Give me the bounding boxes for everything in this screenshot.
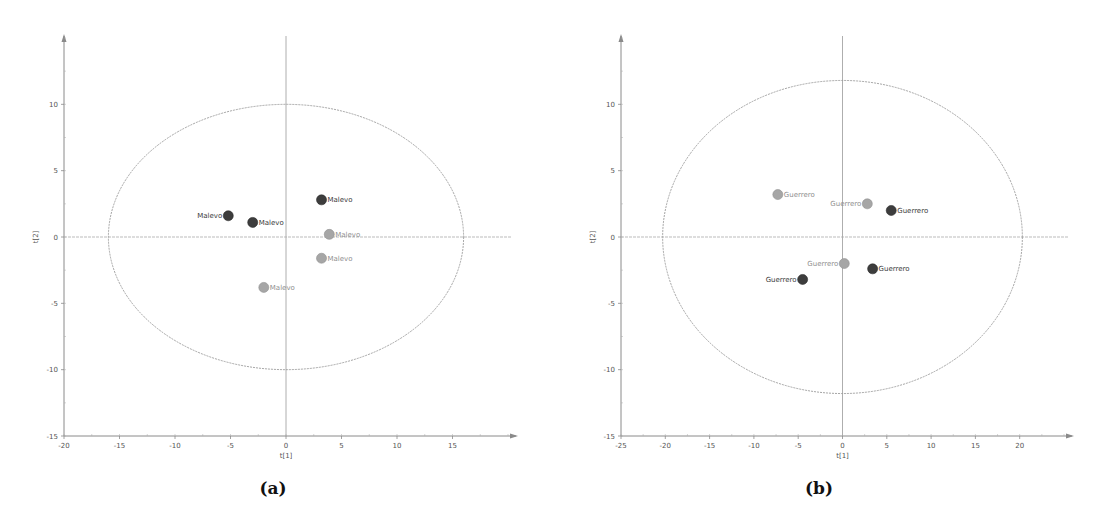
y-tick-label: 0 <box>611 234 615 242</box>
y-tick-label: 5 <box>611 167 615 175</box>
y-axis-title: t[2] <box>32 230 40 243</box>
data-point: Guerrero <box>807 259 849 269</box>
y-tick-label: 0 <box>54 234 58 242</box>
y-tick-label: -5 <box>608 300 615 308</box>
score-plot-b: -25-20-15-10-505101520-15-10-50510t[1]t[… <box>546 0 1092 524</box>
x-axis-arrow-icon <box>1066 434 1074 439</box>
point-label: Malevo <box>197 212 222 220</box>
point-label: Guerrero <box>830 200 861 208</box>
x-tick-label: -20 <box>660 442 671 450</box>
point-marker <box>324 229 334 239</box>
point-marker <box>317 253 327 263</box>
x-axis-title: t[1] <box>280 452 293 460</box>
y-axis-title: t[2] <box>589 230 597 243</box>
x-tick-label: 10 <box>927 442 936 450</box>
point-marker <box>886 205 896 215</box>
x-tick-label: -10 <box>169 442 180 450</box>
point-marker <box>317 195 327 205</box>
x-tick-label: -25 <box>615 442 626 450</box>
x-tick-label: -10 <box>748 442 759 450</box>
data-point: Guerrero <box>773 190 815 200</box>
data-point: Malevo <box>317 253 353 263</box>
y-tick-label: -15 <box>604 433 615 441</box>
score-plot-a: -20-15-10-5051015-15-10-50510t[1]t[2]Mal… <box>0 0 546 524</box>
y-tick-label: 5 <box>54 167 58 175</box>
point-marker <box>868 264 878 274</box>
panel-caption-a: (a) <box>0 478 546 498</box>
y-tick-label: -5 <box>51 300 58 308</box>
y-tick-label: -10 <box>604 366 615 374</box>
y-tick-label: -15 <box>47 433 58 441</box>
data-point: Guerrero <box>868 264 910 274</box>
x-tick-label: -5 <box>227 442 234 450</box>
y-tick-label: 10 <box>49 101 58 109</box>
point-label: Malevo <box>328 196 353 204</box>
point-label: Malevo <box>328 255 353 263</box>
data-point: Guerrero <box>766 274 808 284</box>
x-tick-label: 5 <box>885 442 889 450</box>
point-marker <box>862 199 872 209</box>
point-marker <box>248 217 258 227</box>
data-point: Guerrero <box>830 199 872 209</box>
x-tick-label: -20 <box>58 442 69 450</box>
point-label: Guerrero <box>766 276 797 284</box>
x-tick-label: 15 <box>971 442 980 450</box>
scatter-chart-a: -20-15-10-5051015-15-10-50510t[1]t[2]Mal… <box>0 0 546 524</box>
point-label: Malevo <box>335 231 360 239</box>
point-marker <box>839 259 849 269</box>
y-tick-label: 10 <box>606 101 615 109</box>
x-tick-label: -15 <box>114 442 125 450</box>
point-label: Guerrero <box>784 191 815 199</box>
data-point: Malevo <box>248 217 284 227</box>
data-point: Malevo <box>197 211 233 221</box>
x-tick-label: 0 <box>840 442 844 450</box>
panel-caption-b: (b) <box>546 478 1092 498</box>
point-marker <box>798 274 808 284</box>
data-point: Malevo <box>317 195 353 205</box>
point-label: Guerrero <box>897 207 928 215</box>
x-axis-title: t[1] <box>836 452 849 460</box>
point-label: Malevo <box>270 284 295 292</box>
x-tick-label: 5 <box>339 442 343 450</box>
data-point: Guerrero <box>886 205 928 215</box>
x-tick-label: -5 <box>795 442 802 450</box>
scatter-chart-b: -25-20-15-10-505101520-15-10-50510t[1]t[… <box>546 0 1093 524</box>
x-tick-label: 0 <box>284 442 288 450</box>
x-tick-label: -15 <box>704 442 715 450</box>
point-marker <box>773 190 783 200</box>
data-point: Malevo <box>259 282 295 292</box>
x-axis-arrow-icon <box>510 434 518 439</box>
point-label: Malevo <box>259 219 284 227</box>
panel-label-a: (a) <box>259 478 286 498</box>
point-label: Guerrero <box>879 265 910 273</box>
panel-label-b: (b) <box>805 478 833 498</box>
x-tick-label: 20 <box>1015 442 1024 450</box>
data-point: Malevo <box>324 229 360 239</box>
x-tick-label: 15 <box>448 442 457 450</box>
x-tick-label: 10 <box>393 442 402 450</box>
y-tick-label: -10 <box>47 366 58 374</box>
point-marker <box>259 282 269 292</box>
point-label: Guerrero <box>807 260 838 268</box>
point-marker <box>223 211 233 221</box>
